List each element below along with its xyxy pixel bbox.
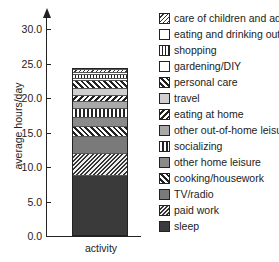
bar-segment [73,126,127,136]
y-tick [46,202,51,203]
legend-label: shopping [174,44,217,56]
bar-segment [73,136,127,153]
y-tick [46,64,51,65]
legend-item: paid work [159,202,279,218]
legend-swatch-icon [159,157,170,168]
legend-label: personal care [174,76,238,88]
y-tick-label: 5.0 [2,196,42,208]
legend-item: TV/radio [159,186,279,202]
bar-segment [73,175,127,235]
y-tick [46,133,51,134]
legend-item: shopping [159,42,279,58]
legend-swatch-icon [159,189,170,200]
legend-swatch-icon [159,13,170,24]
y-tick [46,29,51,30]
legend-swatch-icon [159,61,170,72]
legend-item: other home leisure [159,154,279,170]
y-tick-label: 25.0 [2,58,42,70]
legend-label: TV/radio [174,188,214,200]
stacked-bar [72,68,128,236]
y-tick-label: 30.0 [2,23,42,35]
legend-label: eating and drinking out [174,28,279,40]
bar-segment [73,117,127,126]
legend: care of children and adultseating and dr… [159,10,279,234]
legend-label: eating at home [174,108,243,120]
bar-segment [73,95,127,102]
y-tick [46,236,51,237]
y-tick [46,167,51,168]
legend-item: other out-of-home leisure [159,122,279,138]
legend-label: sleep [174,220,199,232]
bar-segment [73,101,127,108]
legend-swatch-icon [159,173,170,184]
legend-label: other home leisure [174,156,261,168]
legend-swatch-icon [159,29,170,40]
y-tick [46,98,51,99]
legend-item: gardening/DIY [159,58,279,74]
legend-swatch-icon [159,109,170,120]
legend-swatch-icon [159,141,170,152]
legend-item: care of children and adults [159,10,279,26]
legend-swatch-icon [159,77,170,88]
legend-item: cooking/housework [159,170,279,186]
legend-swatch-icon [159,125,170,136]
x-axis [46,236,141,237]
y-axis [46,14,47,237]
legend-label: cooking/housework [174,172,264,184]
legend-item: eating and drinking out [159,26,279,42]
y-tick-label: 20.0 [2,92,42,104]
legend-item: travel [159,90,279,106]
legend-label: travel [174,92,200,104]
legend-swatch-icon [159,45,170,56]
legend-label: gardening/DIY [174,60,241,72]
y-tick-label: 15.0 [2,127,42,139]
y-tick-label: 10.0 [2,161,42,173]
bar-segment [73,80,127,89]
legend-label: socializing [174,140,222,152]
y-tick-label: 0.0 [2,230,42,242]
legend-label: paid work [174,204,219,216]
legend-label: other out-of-home leisure [174,124,279,136]
legend-item: sleep [159,218,279,234]
legend-swatch-icon [159,205,170,216]
legend-item: personal care [159,74,279,90]
x-axis-label: activity [66,242,136,254]
legend-item: eating at home [159,106,279,122]
bar-segment [73,153,127,175]
bar-segment [73,108,127,117]
legend-item: socializing [159,138,279,154]
legend-swatch-icon [159,93,170,104]
legend-swatch-icon [159,221,170,232]
legend-label: care of children and adults [174,12,279,24]
